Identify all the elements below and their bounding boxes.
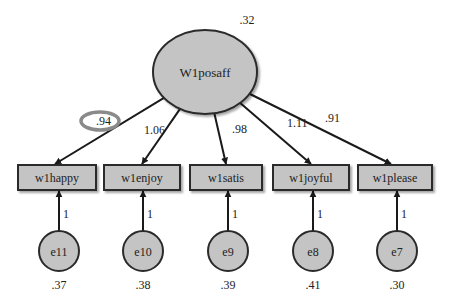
loading-value: .91 [325, 111, 340, 125]
loading-value: .94 [96, 114, 111, 128]
sem-path-diagram: W1posaff.32w1happy.94w1enjoy1.06w1satis.… [0, 0, 452, 304]
loading-value: .98 [232, 122, 247, 136]
indicator-label: w1please [373, 171, 418, 185]
error-variance: .37 [52, 278, 67, 292]
loading-path-w1satis [214, 113, 226, 164]
error-path-coefficient: 1 [232, 207, 238, 221]
loading-value: 1.11 [287, 116, 308, 130]
error-path-coefficient: 1 [317, 207, 323, 221]
indicator-label: w1enjoy [121, 171, 162, 185]
error-variance: .39 [221, 278, 236, 292]
error-label: e9 [222, 245, 233, 259]
indicator-label: w1satis [208, 171, 244, 185]
error-variance: .30 [390, 278, 405, 292]
error-path-coefficient: 1 [401, 207, 407, 221]
error-path-coefficient: 1 [63, 207, 69, 221]
error-label: e7 [391, 245, 402, 259]
error-label: e8 [307, 245, 318, 259]
latent-variance: .32 [240, 13, 255, 27]
indicator-label: w1joyful [289, 171, 333, 185]
error-label: e11 [51, 245, 68, 259]
error-path-coefficient: 1 [147, 207, 153, 221]
error-label: e10 [134, 245, 151, 259]
error-variance: .41 [306, 278, 321, 292]
latent-label: W1posaff [179, 65, 231, 80]
error-variance: .38 [136, 278, 151, 292]
indicator-label: w1happy [35, 171, 79, 185]
loading-path-w1joyful [240, 103, 311, 164]
loading-value: 1.06 [144, 123, 165, 137]
